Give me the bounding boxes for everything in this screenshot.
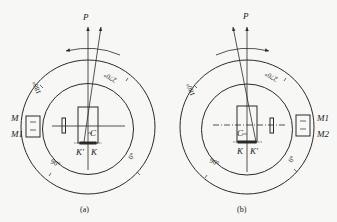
center-label: C (237, 128, 244, 138)
panel-a (21, 27, 155, 194)
point-label-left: K (236, 146, 244, 156)
two-panel-diagram: P 180° 270° 90° 0° M M1 C K' K (a) P 180… (0, 0, 337, 222)
direction-label: P (242, 11, 249, 21)
direction-label: P (82, 12, 89, 22)
scale-label-180: 180° (31, 80, 43, 95)
mirror-label-upper: M (10, 113, 19, 123)
panel-b (180, 27, 314, 194)
rotation-arrow (216, 48, 269, 55)
k-bar (238, 141, 256, 143)
mirror-label-upper: M1 (316, 113, 329, 123)
caption: (b) (237, 205, 247, 214)
point-label-left: K' (75, 147, 85, 157)
mirror-label-lower: M1 (10, 129, 23, 139)
point-label-right: K' (249, 146, 259, 156)
center-label: C (90, 128, 97, 138)
small-slit (62, 118, 66, 133)
k-bar (80, 142, 96, 144)
scale-label-0: 0° (127, 151, 137, 161)
scale-label-270: 270° (263, 70, 279, 84)
mirror-label-lower: M2 (316, 129, 329, 139)
panel-a-labels: P 180° 270° 90° 0° M M1 C K' K (a) (10, 12, 137, 214)
scale-label-270: 270° (102, 71, 118, 85)
small-slit (270, 118, 274, 133)
mirror-box (26, 116, 40, 137)
rotation-arrow (66, 48, 120, 55)
mirror-box (296, 115, 310, 136)
caption: (a) (80, 205, 89, 214)
point-label-right: K (90, 147, 98, 157)
scale-label-0: 0° (287, 154, 297, 164)
scale-label-90: 90° (208, 157, 220, 168)
scale-label-90: 90° (49, 158, 61, 169)
